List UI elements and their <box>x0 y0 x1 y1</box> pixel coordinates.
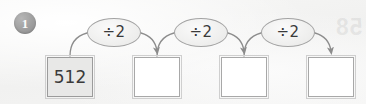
connector-box2-to-op2 <box>244 33 261 56</box>
operator-label: ÷2 <box>102 25 125 40</box>
value-box-text: 512 <box>54 69 86 86</box>
value-box-start[interactable]: 512 <box>47 57 93 97</box>
connector-box1-to-op1 <box>157 33 174 56</box>
value-box-answer-1[interactable] <box>134 57 180 97</box>
connector-op1-to-box2 <box>228 33 244 51</box>
operator-label: ÷2 <box>189 25 212 40</box>
connector-op2-to-box3 <box>315 33 331 51</box>
division-chain-worksheet: 58 1 512 ÷2 ÷2 <box>0 0 366 104</box>
connector-box0-to-op0 <box>70 33 87 56</box>
value-box-answer-2[interactable] <box>221 57 267 97</box>
operator-node-2: ÷2 <box>174 18 228 47</box>
connector-op0-to-box1 <box>141 33 157 51</box>
operator-node-1: ÷2 <box>87 18 141 47</box>
operator-node-3: ÷2 <box>261 18 315 47</box>
operator-label: ÷2 <box>276 25 299 40</box>
value-box-answer-3[interactable] <box>308 57 354 97</box>
